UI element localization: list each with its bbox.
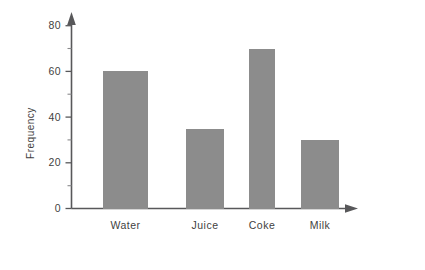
x-label-water: Water [110, 219, 140, 231]
bar-chart-figure: 0 20 40 60 80 Frequency Water Juice Coke… [0, 0, 425, 270]
bar-water [103, 71, 148, 208]
bar-coke [249, 49, 275, 209]
y-tick-label-20: 20 [49, 156, 61, 168]
bar-milk [301, 140, 339, 209]
x-label-milk: Milk [310, 219, 331, 231]
x-label-juice: Juice [191, 219, 218, 231]
x-label-coke: Coke [249, 219, 276, 231]
chart-canvas: 0 20 40 60 80 Frequency Water Juice Coke… [0, 0, 425, 270]
y-tick-label-60: 60 [49, 65, 61, 77]
y-tick-label-80: 80 [49, 19, 61, 31]
y-axis-title: Frequency [25, 107, 36, 159]
bar-juice [186, 129, 224, 209]
y-tick-label-0: 0 [55, 202, 61, 214]
y-tick-label-40: 40 [49, 111, 61, 123]
